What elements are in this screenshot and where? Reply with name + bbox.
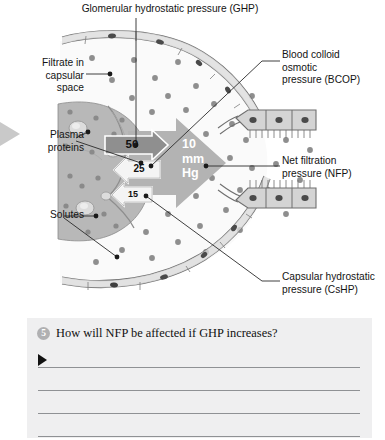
answer-caret-icon bbox=[38, 354, 47, 366]
question-panel: 5 How will NFP be affected if GHP increa… bbox=[27, 318, 372, 438]
label-ghp: Glomerular hydrostatic pressure (GHP) bbox=[40, 3, 300, 16]
nfp-value: 10 mm Hg bbox=[182, 137, 222, 181]
ghp-value: 50 bbox=[115, 138, 149, 150]
cshp-value: 15 bbox=[119, 189, 147, 199]
kidney-filtration-diagram: Glomerular hydrostatic pressure (GHP) Fi… bbox=[0, 0, 385, 315]
label-nfp: Net filtration pressure (NFP) bbox=[282, 155, 382, 180]
label-cshp: Capsular hydrostatic pressure (CsHP) bbox=[282, 271, 385, 296]
label-filtrate-capsular-space: Filtrate in capsular space bbox=[6, 57, 84, 95]
label-plasma-proteins: Plasma proteins bbox=[6, 129, 84, 154]
answer-line[interactable] bbox=[38, 367, 360, 368]
answer-line[interactable] bbox=[38, 390, 360, 391]
question-text: How will NFP be affected if GHP increase… bbox=[56, 326, 277, 340]
label-bcop: Blood colloid osmotic pressure (BCOP) bbox=[282, 49, 382, 87]
question-row: 5 How will NFP be affected if GHP increa… bbox=[37, 326, 277, 340]
question-number-badge: 5 bbox=[37, 327, 50, 340]
label-solutes: Solutes bbox=[6, 209, 84, 222]
answer-line[interactable] bbox=[38, 413, 360, 414]
answer-line[interactable] bbox=[38, 436, 360, 437]
bcop-value: 25 bbox=[124, 163, 154, 174]
